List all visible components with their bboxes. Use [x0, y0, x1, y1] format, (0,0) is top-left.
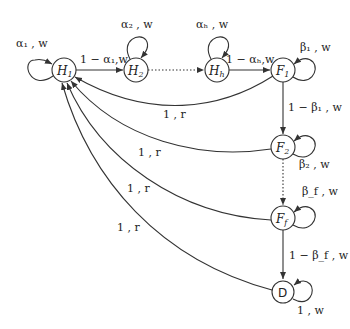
- edge-h1-self: [28, 59, 53, 80]
- label-h1-self: α₁ , w: [16, 37, 48, 50]
- label-f2-self: β₂ , w: [299, 158, 330, 171]
- edge-d-self: [293, 281, 312, 301]
- label-f1-h1: 1 , r: [163, 108, 186, 121]
- label-h2-self: α₂ , w: [121, 18, 153, 31]
- label-ff-h1: 1 , r: [127, 182, 150, 195]
- edge-f2-self: [293, 136, 315, 157]
- label-ff-self: β_f , w: [302, 185, 338, 198]
- edge-ff-self: [293, 207, 315, 228]
- node-h1: H1: [52, 58, 76, 82]
- edge-h2-self: [127, 37, 147, 59]
- edge-f1-self: [293, 59, 315, 81]
- label-d-h1: 1 , r: [117, 221, 140, 234]
- label-d-self: 1 , w: [297, 304, 324, 317]
- edge-f1-h1: [75, 76, 273, 106]
- node-f1: F1: [271, 58, 295, 82]
- label-hh-f1: 1 − αₕ,w: [226, 53, 275, 66]
- label-f2-h1: 1 , r: [138, 146, 161, 159]
- label-hh-self: αₕ , w: [196, 18, 229, 31]
- state-diagram: H1 H2 Hh F1 F2 Ff D α₁ , w 1 − α₁,w α₂ ,…: [0, 0, 350, 329]
- node-d: D: [272, 281, 294, 303]
- label-f1-f2: 1 − β₁ , w: [288, 101, 342, 114]
- label-ff-d: 1 − β_f , w: [289, 249, 349, 262]
- label-h1-h2: 1 − α₁,w: [80, 53, 129, 66]
- svg-text:D: D: [278, 286, 287, 300]
- label-f1-self: β₁ , w: [300, 41, 331, 54]
- node-ff: Ff: [271, 206, 295, 230]
- node-f2: F2: [271, 135, 295, 159]
